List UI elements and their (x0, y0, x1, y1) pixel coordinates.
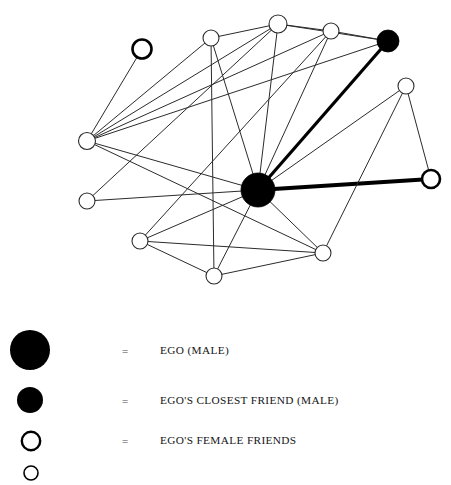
network-node-f8[interactable] (422, 170, 440, 188)
network-node-f6[interactable] (79, 133, 96, 150)
legend-label-female-friends: EGO'S FEMALE FRIENDS (160, 434, 445, 446)
network-node-f1[interactable] (133, 40, 152, 59)
network-node-f5[interactable] (398, 78, 414, 94)
network-node-f7[interactable] (79, 193, 95, 209)
network-node-f2[interactable] (203, 30, 219, 46)
network-node-f9[interactable] (132, 233, 148, 249)
legend-label-closest-friend: EGO'S CLOSEST FRIEND (MALE) (160, 394, 445, 406)
ego-network-diagram (0, 0, 451, 300)
legend-marker-large-filled-circle (0, 328, 70, 372)
legend-equals-closest-friend: = (122, 396, 142, 407)
legend-row-closest-friend: = EGO'S CLOSEST FRIEND (MALE) (0, 378, 451, 422)
network-node-f10[interactable] (206, 268, 222, 284)
legend-row-female-friends: = EGO'S FEMALE FRIENDS (0, 419, 451, 463)
legend-marker-small-open-circle-cropped (0, 464, 70, 485)
legend-equals-ego: = (122, 346, 142, 357)
legend-marker-medium-filled-circle (0, 378, 70, 422)
network-node-cf[interactable] (377, 30, 399, 52)
network-node-ego[interactable] (241, 173, 275, 207)
legend-row-cropped (0, 464, 451, 485)
legend-row-ego: = EGO (MALE) (0, 328, 451, 372)
network-node-f11[interactable] (315, 245, 331, 261)
legend: = EGO (MALE) = EGO'S CLOSEST FRIEND (MAL… (0, 300, 451, 475)
network-node-f3[interactable] (269, 15, 287, 33)
legend-label-ego: EGO (MALE) (160, 344, 445, 356)
legend-marker-open-circle (0, 419, 70, 463)
network-node-f4[interactable] (323, 23, 339, 39)
legend-equals-female-friends: = (122, 436, 142, 447)
